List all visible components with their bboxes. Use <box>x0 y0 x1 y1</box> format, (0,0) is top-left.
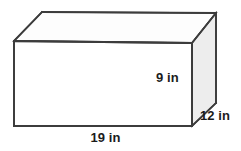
prism-drawing <box>0 0 241 151</box>
edge-top-back <box>42 12 216 13</box>
width-dimension-label: 19 in <box>0 131 211 144</box>
height-dimension-label: 9 in <box>156 71 179 84</box>
depth-dimension-label: 12 in <box>200 109 230 122</box>
rectangular-prism-figure: 9 in 12 in 19 in <box>0 0 241 151</box>
top-face <box>14 12 216 43</box>
